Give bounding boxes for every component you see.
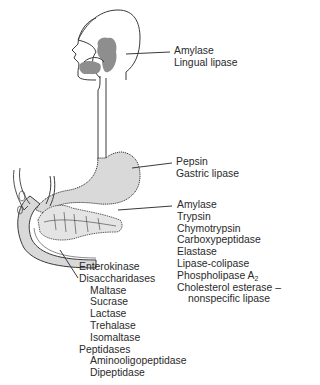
enzyme-label: Gastric lipase (176, 168, 239, 180)
tongue (79, 61, 101, 74)
enzyme-label: Lingual lipase (174, 57, 238, 69)
esophagus (98, 76, 106, 160)
pancreas (38, 205, 122, 240)
enzyme-label: Amylase (174, 45, 238, 57)
enzyme-label: Cholesterol esterase – (177, 282, 281, 294)
mouth-enzymes: Amylase Lingual lipase (174, 45, 238, 69)
enzyme-label: Dipeptidase (79, 367, 186, 379)
enzyme-label: Carboxypeptidase (177, 234, 281, 246)
enzyme-label: Sucrase (79, 296, 186, 308)
enzyme-label: Enterokinase (79, 261, 186, 273)
enzyme-label: Pepsin (176, 156, 239, 168)
enzyme-label: Amylase (177, 199, 281, 211)
stomach-enzymes: Pepsin Gastric lipase (176, 156, 239, 180)
enzyme-label-phospholipase: Phospholipase A2 (177, 270, 281, 282)
enzyme-label: Aminooligopeptidase (79, 355, 186, 367)
pancreas-enzymes: Amylase Trypsin Chymotrypsin Carboxypept… (177, 199, 281, 305)
enzyme-label: Elastase (177, 246, 281, 258)
enzyme-label: nonspecific lipase (177, 293, 281, 305)
enzyme-label: Trehalase (79, 320, 186, 332)
leader-pancreas (118, 206, 172, 210)
enzyme-category: Disaccharidases (79, 273, 186, 285)
enzyme-label: Trypsin (177, 211, 281, 223)
enzyme-label: Isomaltase (79, 332, 186, 344)
stomach (36, 152, 140, 214)
enzyme-label: Maltase (79, 285, 186, 297)
enzyme-label: Lactase (79, 308, 186, 320)
leader-mouth (126, 52, 170, 54)
enzyme-category: Peptidases (79, 344, 186, 356)
enzyme-label: Chymotrypsin (177, 223, 281, 235)
enzyme-label: Lipase-colipase (177, 258, 281, 270)
intestine-enzymes: Enterokinase Disaccharidases Maltase Suc… (79, 261, 186, 379)
